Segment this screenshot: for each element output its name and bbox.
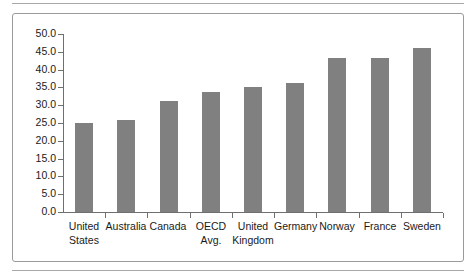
x-tick-mark (105, 213, 106, 218)
y-tick-label: 10.0 (36, 169, 56, 182)
bar (413, 48, 431, 212)
y-tick-label: 35.0 (36, 80, 56, 93)
divider-bottom (12, 270, 464, 271)
y-tick-label: 50.0 (36, 27, 56, 40)
chart-page: 50.045.040.035.030.025.020.015.010.05.00… (0, 0, 476, 276)
x-tick-label: OECD Avg. (190, 220, 232, 247)
y-tick-label: 15.0 (36, 152, 56, 165)
x-tick-label: France (359, 220, 401, 234)
x-tick-mark (190, 213, 191, 218)
x-axis-labels: United StatesAustraliaCanadaOECD Avg.Uni… (63, 220, 443, 260)
x-tick-label: Canada (147, 220, 189, 234)
x-tick-mark (147, 213, 148, 218)
bar (75, 123, 93, 212)
y-tick-label: 45.0 (36, 45, 56, 58)
x-tick-label: Germany (274, 220, 316, 234)
x-tick-label: Australia (105, 220, 147, 234)
x-tick-label: Norway (316, 220, 358, 234)
y-tick-label: 30.0 (36, 98, 56, 111)
x-tick-mark (274, 213, 275, 218)
y-tick-label: 25.0 (36, 116, 56, 129)
bar (286, 83, 304, 212)
y-tick-mark (58, 212, 63, 213)
y-tick-label: 0.0 (41, 205, 56, 218)
x-tick-mark (359, 213, 360, 218)
x-tick-mark (232, 213, 233, 218)
x-tick-label: United Kingdom (232, 220, 274, 247)
x-tick-mark (401, 213, 402, 218)
x-tick-label: United States (63, 220, 105, 247)
y-tick-label: 5.0 (41, 187, 56, 200)
y-tick-label: 40.0 (36, 63, 56, 76)
x-tick-label: Sweden (401, 220, 443, 234)
bar (244, 87, 262, 212)
bar (160, 101, 178, 212)
plot-area: 50.045.040.035.030.025.020.015.010.05.00… (63, 34, 443, 212)
bar (202, 92, 220, 212)
x-tick-mark (316, 213, 317, 218)
bar (328, 58, 346, 212)
chart-frame: 50.045.040.035.030.025.020.015.010.05.00… (12, 13, 464, 262)
x-axis-line (63, 212, 443, 213)
bar-series (63, 34, 443, 212)
divider-top (12, 3, 464, 4)
bar (117, 120, 135, 212)
x-tick-mark (443, 213, 444, 218)
y-tick-label: 20.0 (36, 134, 56, 147)
bar (371, 58, 389, 212)
